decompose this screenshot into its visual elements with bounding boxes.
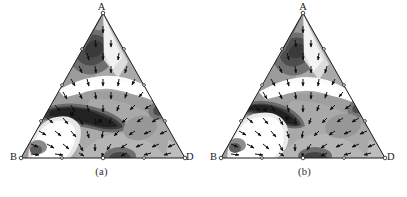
figure-dual-ternary-plots: A B D (a) bbox=[0, 0, 407, 197]
ternary-svg-a bbox=[0, 0, 203, 170]
vertex-label-b-top: A bbox=[299, 2, 307, 13]
vertex-label-a-top: A bbox=[98, 2, 106, 13]
ternary-plot-b: A B D bbox=[203, 0, 406, 170]
panel-caption-a: (a) bbox=[0, 166, 203, 177]
vertex-label-a-bottom-right: D bbox=[186, 152, 194, 163]
contour-field-b bbox=[203, 0, 406, 170]
panel-b: A B D (b) bbox=[203, 0, 406, 197]
panel-a: A B D (a) bbox=[0, 0, 203, 197]
panel-caption-b: (b) bbox=[203, 166, 406, 177]
ternary-svg-b bbox=[203, 0, 406, 170]
vertex-label-a-bottom-left: B bbox=[10, 152, 17, 163]
ternary-plot-a: A B D bbox=[0, 0, 203, 170]
vertex-label-b-bottom-right: D bbox=[387, 152, 395, 163]
contour-field-a bbox=[0, 0, 203, 170]
vertex-label-b-bottom-left: B bbox=[210, 152, 217, 163]
